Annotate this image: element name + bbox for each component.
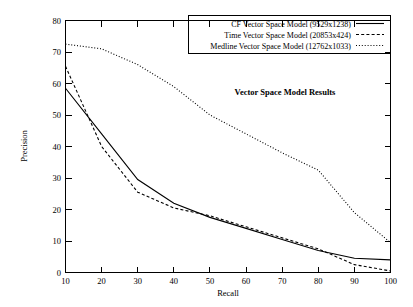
chart-legend: CF Vector Space Model (9529x1238) Time V…: [189, 16, 391, 54]
y-axis-ticks: [66, 21, 391, 273]
legend-label-cf: CF Vector Space Model (9529x1238): [231, 20, 351, 29]
x-tick-labels: 10 20 30 40 50 60 70 80 90 100: [61, 276, 397, 286]
series-line-0: [66, 88, 391, 260]
x-tick-label: 90: [350, 276, 359, 286]
y-tick-labels: 0 10 20 30 40 50 60 70 80: [53, 16, 62, 278]
series-line-2: [66, 44, 391, 242]
legend-swatches: [356, 24, 384, 46]
x-axis-ticks: [66, 21, 391, 273]
precision-recall-chart: 0 10 20 30 40 50 60 70 80 10 20 30 40 50…: [0, 0, 413, 307]
y-tick-label: 20: [53, 205, 62, 215]
chart-annotation: Vector Space Model Results: [235, 87, 337, 97]
x-tick-label: 100: [384, 276, 397, 286]
x-tick-label: 50: [206, 276, 215, 286]
y-tick-label: 80: [53, 16, 62, 26]
y-tick-label: 70: [53, 47, 62, 57]
x-tick-label: 60: [242, 276, 251, 286]
y-tick-label: 40: [53, 142, 62, 152]
y-axis-title: Precision: [19, 129, 29, 161]
series-line-1: [66, 66, 391, 271]
x-tick-label: 80: [314, 276, 323, 286]
x-tick-label: 20: [97, 276, 106, 286]
y-tick-label: 60: [53, 79, 62, 89]
x-axis-title: Recall: [217, 288, 239, 298]
legend-label-time: Time Vector Space Model (20853x424): [224, 31, 351, 40]
x-tick-label: 40: [170, 276, 179, 286]
plot-frame: [66, 21, 391, 273]
series-group: [66, 44, 391, 271]
x-tick-label: 70: [278, 276, 287, 286]
x-tick-label: 30: [133, 276, 142, 286]
y-tick-label: 10: [53, 236, 62, 246]
y-tick-label: 30: [53, 173, 62, 183]
legend-label-medline: Medline Vector Space Model (12762x1033): [210, 42, 351, 51]
chart-canvas: 0 10 20 30 40 50 60 70 80 10 20 30 40 50…: [0, 0, 413, 307]
y-tick-label: 50: [53, 110, 62, 120]
x-tick-label: 10: [61, 276, 70, 286]
